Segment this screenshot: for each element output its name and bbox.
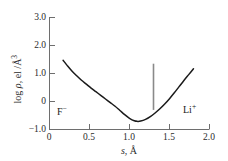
cation-label: Li+	[183, 103, 196, 115]
cation-label-charge: +	[192, 102, 196, 111]
x-axis-title: s, Å	[49, 146, 209, 156]
x-tick-label-1_0: 1.0	[123, 133, 135, 143]
y-tick-label-3_0: 3.0	[22, 13, 46, 23]
x-axis-title-suffix: , Å	[125, 145, 137, 156]
y-axis-title: log ρ, el /Å3	[11, 24, 23, 134]
x-tick-label-0: 0	[47, 133, 52, 143]
x-tick-label-2_0: 2.0	[203, 133, 215, 143]
y-tick-label-0: 0	[22, 97, 46, 107]
density-curve-path	[63, 60, 193, 121]
y-axis-title-suffix: , el /Å	[12, 59, 23, 84]
y-axis-title-exponent: 3	[10, 55, 19, 59]
plot-canvas	[0, 0, 228, 161]
x-tick-label-0_5: 0.5	[83, 133, 95, 143]
y-axis-title-prefix: log	[12, 88, 23, 103]
y-axis-title-symbol: ρ	[12, 83, 23, 88]
cation-label-base: Li	[183, 104, 192, 115]
y-tick-label-1_0: 1.0	[22, 69, 46, 79]
x-tick-marks	[50, 124, 210, 130]
y-tick-marks	[50, 18, 56, 130]
anion-label: F−	[57, 105, 67, 117]
y-tick-label-2_0: 2.0	[22, 41, 46, 51]
anion-label-charge: −	[63, 104, 67, 113]
electron-density-chart-figure: 3.0 2.0 1.0 0 −1.0 0 0.5 1.0 1.5 2.0 log…	[0, 0, 228, 161]
x-tick-label-1_5: 1.5	[163, 133, 175, 143]
